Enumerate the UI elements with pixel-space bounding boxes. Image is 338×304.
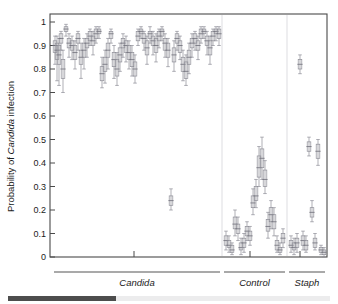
y-tick-label: 0.8 [33,64,46,74]
y-tick-group: 00.10.20.30.40.50.60.70.80.91 [33,17,55,262]
group-label-control: Control [239,277,271,288]
group-label-candida: Candida [119,277,154,288]
y-tick-label: 0.6 [33,111,46,121]
bottom-progress-bar[interactable] [8,296,116,301]
ylabel-prefix: Probability of [5,154,16,212]
y-axis-label: Probability of Candida infection [5,81,16,212]
y-tick-label: 0.1 [33,229,46,239]
figure-panel: Probability of Candida infection 00.10.2… [0,0,338,304]
y-tick-label: 0 [41,252,46,262]
ylabel-italic-candida: Candida [5,119,16,154]
y-tick-label: 0.2 [33,205,46,215]
y-tick-label: 0.7 [33,88,46,98]
group-separator-lines [222,15,287,256]
x-tick-group [134,251,300,257]
data-markers [52,24,326,257]
ylabel-suffix: infection [5,81,16,119]
y-tick-label: 0.3 [33,182,46,192]
group-label-staph: Staph [295,277,320,288]
bottom-progress-track[interactable] [116,296,330,301]
chart-svg: Probability of Candida infection 00.10.2… [0,0,338,296]
y-tick-label: 0.9 [33,41,46,51]
group-labels: CandidaControlStaph [119,277,319,288]
y-tick-label: 1 [41,17,46,27]
y-tick-label: 0.5 [33,135,46,145]
svg-text:Probability of Candida infecti: Probability of Candida infection [5,81,16,212]
y-tick-label: 0.4 [33,158,46,168]
